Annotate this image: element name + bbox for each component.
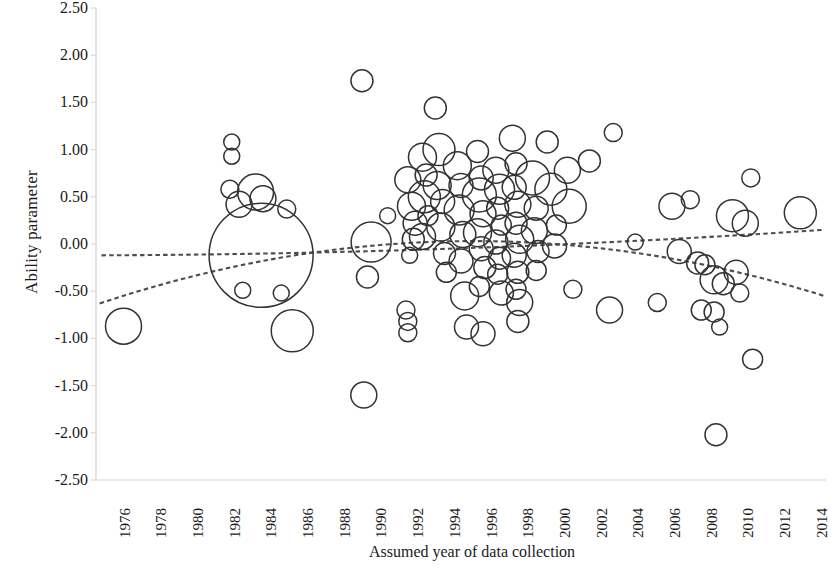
- x-axis-tick-label: 2000: [558, 508, 573, 538]
- x-axis-tick-label: 1980: [191, 508, 206, 538]
- bubble-marker: [278, 200, 296, 218]
- bubble-marker: [471, 322, 495, 346]
- x-axis-tick-label: 1976: [118, 508, 133, 538]
- bubble-marker: [507, 310, 529, 332]
- bubble-marker: [507, 290, 533, 316]
- y-axis-title: Ability parameter: [22, 112, 42, 352]
- x-axis-tick-label: 1994: [448, 508, 463, 538]
- bubble-marker: [705, 424, 727, 446]
- bubble-marker: [524, 196, 548, 220]
- bubble-marker: [450, 222, 476, 248]
- y-axis-tick-label: -1.50: [26, 378, 88, 394]
- x-axis-tick-label: 2010: [741, 508, 756, 538]
- bubble-marker: [604, 124, 622, 142]
- chart-canvas: [0, 0, 836, 569]
- bubble-marker: [402, 228, 424, 250]
- y-axis-tick-label: -2.00: [26, 425, 88, 441]
- bubble-marker: [724, 260, 748, 284]
- x-axis-tick-label: 1988: [338, 508, 353, 538]
- bubble-markers-group: [106, 70, 817, 446]
- x-axis-tick-label: 2014: [815, 508, 830, 538]
- bubble-marker: [423, 134, 455, 166]
- y-axis-tick-label: 2.00: [26, 47, 88, 63]
- bubble-marker: [543, 234, 567, 258]
- bubble-marker: [554, 157, 580, 183]
- bubble-marker: [436, 262, 456, 282]
- bubble-marker: [415, 164, 437, 186]
- bubble-marker: [380, 208, 396, 224]
- bubble-marker: [627, 234, 643, 250]
- bubble-marker: [731, 284, 749, 302]
- bubble-marker: [552, 189, 586, 223]
- bubble-marker: [455, 315, 479, 339]
- bubble-marker: [351, 70, 373, 92]
- bubble-marker: [351, 382, 377, 408]
- bubble-marker: [273, 285, 289, 301]
- x-axis-tick-label: 2006: [668, 508, 683, 538]
- bubble-marker: [742, 169, 760, 187]
- x-axis-tick-label: 1996: [485, 508, 500, 538]
- x-axis-title-text: Assumed year of data collection: [369, 543, 575, 561]
- bubble-marker: [732, 210, 758, 236]
- bubble-marker: [784, 197, 816, 229]
- bubble-marker: [648, 294, 666, 312]
- x-axis-title: Assumed year of data collection: [0, 543, 836, 561]
- bubble-marker: [469, 276, 489, 296]
- y-axis-tick-label: 1.50: [26, 94, 88, 110]
- bubble-chart: 2.502.001.501.000.500.00-0.50-1.00-1.50-…: [0, 0, 836, 569]
- bubble-marker: [106, 308, 142, 344]
- bubble-marker: [536, 131, 558, 153]
- x-axis-tick-label: 1990: [374, 508, 389, 538]
- axes-group: [91, 8, 826, 480]
- bubble-marker: [271, 310, 313, 352]
- bubble-marker: [578, 150, 600, 172]
- bubble-marker: [235, 282, 251, 298]
- bubble-marker: [399, 324, 417, 342]
- x-axis-tick-label: 1984: [264, 508, 279, 538]
- x-axis-tick-label: 1978: [154, 508, 169, 538]
- bubble-marker: [351, 222, 391, 262]
- bubble-marker: [424, 97, 446, 119]
- bubble-marker: [535, 173, 567, 205]
- bubble-marker: [485, 174, 515, 204]
- x-axis-tick-label: 1986: [301, 508, 316, 538]
- bubble-marker: [399, 312, 417, 330]
- bubble-marker: [502, 243, 526, 267]
- bubble-marker: [564, 280, 582, 298]
- bubble-marker: [356, 266, 378, 288]
- x-axis-tick-label: 1992: [411, 508, 426, 538]
- x-axis-tick-label: 2004: [631, 508, 646, 538]
- bubble-marker: [467, 140, 489, 162]
- x-axis-tick-label: 1998: [521, 508, 536, 538]
- bubble-marker: [712, 319, 728, 335]
- bubble-marker: [499, 125, 525, 151]
- x-axis-tick-label: 1982: [228, 508, 243, 538]
- bubble-marker: [597, 297, 623, 323]
- x-axis-tick-label: 2002: [595, 508, 610, 538]
- bubble-marker: [506, 225, 534, 253]
- bubble-marker: [743, 349, 763, 369]
- x-axis-tick-label: 2008: [705, 508, 720, 538]
- x-axis-tick-label: 2012: [778, 508, 793, 538]
- y-axis-tick-label: 2.50: [26, 0, 88, 16]
- y-axis-tick-label: -2.50: [26, 472, 88, 488]
